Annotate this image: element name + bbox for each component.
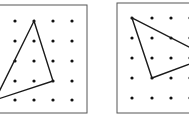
grid-dot [13,39,16,42]
grid-dot [130,96,133,99]
grid-dot [188,76,189,79]
geoboard-figure [0,0,189,116]
grid-dot [70,79,73,82]
grid-dot [150,16,153,19]
grid-dot [32,39,35,42]
grid-dot [70,19,73,22]
grid-dot [188,36,189,39]
grid-dot [51,39,54,42]
grid-dot [51,19,54,22]
triangle-shape [0,21,53,100]
grid-dot [32,59,35,62]
right-geoboard [117,3,189,113]
left-geoboard [0,5,87,113]
grid-dot [150,96,153,99]
grid-dot [13,98,16,101]
board-frame [0,5,87,113]
grid-dot [130,36,133,39]
grid-dot [13,19,16,22]
grid-dot [169,96,172,99]
grid-dot [150,56,153,59]
grid-dot [32,79,35,82]
grid-dot [70,59,73,62]
grid-dot [70,39,73,42]
grid-dot [51,59,54,62]
triangle-shape [132,18,189,78]
grid-dot [150,36,153,39]
grid-dot [130,56,133,59]
grid-dot [169,56,172,59]
grid-dot [188,16,189,19]
grid-dot [51,98,54,101]
grid-dot [188,96,189,99]
grid-dot [13,79,16,82]
grid-dot [70,98,73,101]
grid-dot [169,76,172,79]
grid-dot [188,56,189,59]
grid-dot [130,76,133,79]
grid-dot [32,98,35,101]
grid-dot [169,16,172,19]
